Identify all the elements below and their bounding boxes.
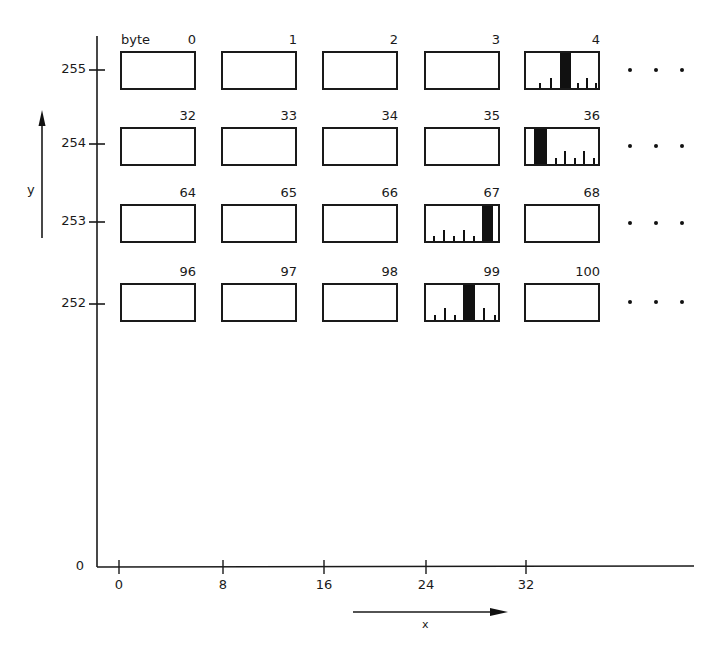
byte-number: 4: [540, 33, 600, 47]
ellipsis-dot-icon: [628, 221, 632, 225]
byte-cell: [221, 204, 297, 243]
ellipsis-dot-icon: [680, 144, 684, 148]
byte-number: 3: [440, 33, 500, 47]
byte-cell: [424, 51, 500, 90]
x-tick-label: 32: [511, 578, 541, 592]
byte-cell: [120, 204, 196, 243]
bit-tick: [574, 158, 576, 164]
pixel-bar: [463, 285, 475, 320]
y-tick-label: 255: [46, 62, 86, 76]
byte-cell: [424, 127, 500, 166]
ellipsis-dot-icon: [628, 144, 632, 148]
ellipsis-dot-icon: [680, 300, 684, 304]
bit-tick: [550, 78, 552, 88]
byte-number: 97: [237, 265, 297, 279]
byte-number: 2: [338, 33, 398, 47]
ellipsis-dot-icon: [654, 144, 658, 148]
bit-tick: [583, 151, 585, 164]
bit-tick: [595, 83, 597, 88]
bit-tick: [444, 308, 446, 320]
byte-cell: [221, 283, 297, 322]
byte-cell: [120, 283, 196, 322]
bit-tick: [577, 83, 579, 88]
pixel-bar: [482, 206, 493, 241]
byte-number: 36: [540, 109, 600, 123]
bit-tick: [473, 236, 475, 241]
byte-number: 35: [440, 109, 500, 123]
x-axis-label: x: [422, 618, 429, 632]
ellipsis-dot-icon: [654, 300, 658, 304]
byte-number: 33: [237, 109, 297, 123]
byte-number: 68: [540, 186, 600, 200]
bit-tick: [586, 78, 588, 88]
bit-tick: [555, 158, 557, 164]
ellipsis-dot-icon: [680, 221, 684, 225]
ellipsis-dot-icon: [654, 68, 658, 72]
ellipsis-dot-icon: [654, 221, 658, 225]
ellipsis-dot-icon: [628, 68, 632, 72]
ellipsis-dot-icon: [628, 300, 632, 304]
byte-number: 99: [440, 265, 500, 279]
byte-cell: [524, 204, 600, 243]
byte-cell: [322, 283, 398, 322]
byte-number: 1: [237, 33, 297, 47]
byte-cell: [322, 127, 398, 166]
bit-tick: [483, 308, 485, 320]
byte-cell: [221, 127, 297, 166]
byte-number: 96: [136, 265, 196, 279]
y-tick-label: 0: [44, 559, 84, 573]
byte-cell: [424, 204, 500, 243]
axes: [0, 0, 727, 662]
byte-cell: [120, 51, 196, 90]
y-tick-label: 254: [46, 136, 86, 150]
byte-number: 34: [338, 109, 398, 123]
x-tick-label: 24: [411, 578, 441, 592]
bit-tick: [454, 315, 456, 320]
byte-cell: [524, 51, 600, 90]
x-tick-label: 0: [104, 578, 134, 592]
ellipsis-dot-icon: [680, 68, 684, 72]
byte-cell: [524, 127, 600, 166]
y-direction-arrow-icon: [39, 110, 46, 238]
byte-layout-diagram: byte y x 2552542532520 08162432 01234323…: [0, 0, 727, 662]
byte-cell: [221, 51, 297, 90]
bit-tick: [593, 158, 595, 164]
bit-tick: [433, 236, 435, 241]
byte-cell: [322, 51, 398, 90]
bit-tick: [443, 230, 445, 241]
byte-number: 64: [136, 186, 196, 200]
byte-number: 98: [338, 265, 398, 279]
byte-cell: [524, 283, 600, 322]
byte-cell: [120, 127, 196, 166]
byte-number: 67: [440, 186, 500, 200]
byte-cell: [424, 283, 500, 322]
x-direction-arrow-icon: [353, 608, 508, 616]
x-axis-line: [97, 566, 694, 567]
byte-number: 100: [540, 265, 600, 279]
byte-number: 65: [237, 186, 297, 200]
bit-tick: [434, 315, 436, 320]
bit-tick: [453, 236, 455, 241]
pixel-bar: [534, 129, 547, 164]
bit-tick: [564, 151, 566, 164]
byte-number: 66: [338, 186, 398, 200]
byte-number: 0: [136, 33, 196, 47]
pixel-bar: [560, 53, 571, 88]
byte-cell: [322, 204, 398, 243]
bit-tick: [463, 230, 465, 241]
y-tick-label: 253: [46, 214, 86, 228]
x-tick-label: 16: [309, 578, 339, 592]
x-tick-label: 8: [208, 578, 238, 592]
y-axis-label: y: [27, 183, 35, 197]
bit-tick: [539, 83, 541, 88]
bit-tick: [494, 315, 496, 320]
y-tick-label: 252: [46, 296, 86, 310]
byte-number: 32: [136, 109, 196, 123]
